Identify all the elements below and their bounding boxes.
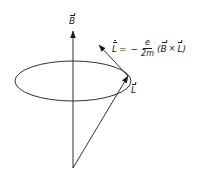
- b-vector-symbol: B: [69, 17, 75, 26]
- b-field-label: B: [69, 17, 75, 26]
- l-vector-symbol: L: [131, 86, 136, 95]
- cross-b-symbol: B: [161, 44, 167, 54]
- cross-operator: ×: [169, 44, 176, 53]
- close-paren: ): [182, 44, 186, 54]
- l-dot-symbol: L: [112, 44, 117, 54]
- precession-equation: L = − e 2m ( B × L ): [112, 39, 186, 58]
- cross-l-symbol: L: [177, 44, 182, 54]
- fraction-numerator: e: [143, 39, 152, 49]
- equals-sign: =: [119, 44, 127, 54]
- minus-sign: −: [131, 44, 139, 54]
- l-vector-label: L: [131, 86, 136, 95]
- fraction-denominator: 2m: [141, 49, 154, 58]
- l-vector: [73, 76, 128, 168]
- diagram-drawing: [0, 0, 203, 175]
- precession-diagram: B L L = − e 2m ( B × L ): [0, 0, 203, 175]
- charge-mass-fraction: e 2m: [141, 39, 154, 58]
- cross-product: ( B × L ): [157, 44, 186, 54]
